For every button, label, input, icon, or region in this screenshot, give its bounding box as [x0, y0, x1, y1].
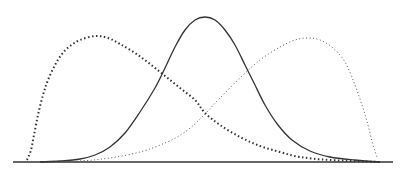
- curve-center-peak: [40, 17, 380, 162]
- curve-right-peak: [45, 38, 377, 162]
- curve-left-peak: [27, 36, 380, 162]
- distribution-curves-chart: [0, 0, 407, 177]
